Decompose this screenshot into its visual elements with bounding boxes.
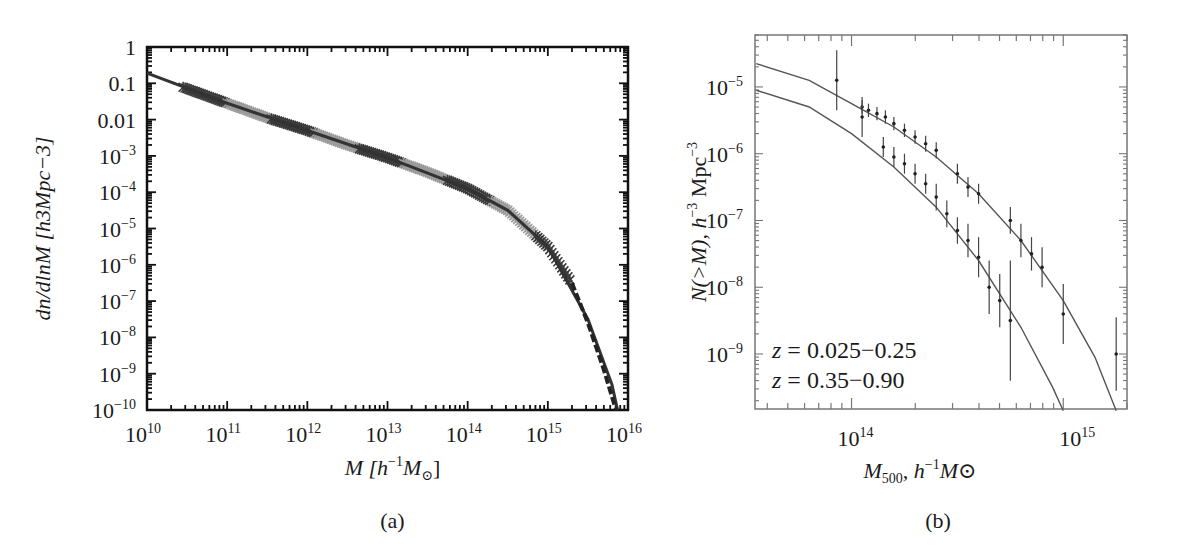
x-tick-label: 1015 <box>526 421 562 447</box>
y-axis-title: dn/dlnM [h3Mpc−3] <box>30 136 55 320</box>
panel-b-caption: (b) <box>925 508 951 533</box>
data-point <box>835 78 839 82</box>
figure-canvas: 101010111012101310141015101610.10.0110−3… <box>0 0 1178 552</box>
data-point <box>1040 265 1044 269</box>
data-point <box>867 109 871 113</box>
data-point <box>892 155 896 159</box>
y-tick-label: 0.01 <box>98 108 137 133</box>
y-tick-label: 1 <box>125 35 136 60</box>
x-tick-label: 1013 <box>366 421 402 447</box>
data-point <box>966 239 970 243</box>
data-point <box>1009 219 1013 223</box>
legend-entry: z = 0.025−0.25 <box>771 337 916 363</box>
legend-entry: z = 0.35−0.90 <box>771 367 904 393</box>
data-point <box>881 145 885 149</box>
data-point <box>924 182 928 186</box>
data-point <box>860 115 864 119</box>
panel-a-chart: 101010111012101310141015101610.10.0110−3… <box>30 35 642 533</box>
y-tick-label: 10−6 <box>99 252 136 278</box>
y-tick-label: 10−4 <box>99 179 136 205</box>
x-tick-label: 1014 <box>446 421 482 447</box>
y-tick-label: 10−7 <box>706 207 743 233</box>
x-tick-label: 1010 <box>125 421 161 447</box>
data-point <box>913 172 917 176</box>
panel-b-chart: 1014101510−510−610−710−810−9z = 0.025−0.… <box>685 35 1127 533</box>
data-point <box>1114 352 1118 356</box>
data-point <box>934 149 938 153</box>
data-point <box>998 299 1002 303</box>
data-point <box>1009 319 1013 323</box>
y-tick-label: 10−5 <box>706 74 743 100</box>
data-point <box>945 212 949 216</box>
data-point <box>903 162 907 166</box>
data-point <box>884 115 888 119</box>
y-tick-label: 10−10 <box>92 397 136 423</box>
data-point <box>977 255 981 259</box>
panel-a-caption: (a) <box>380 508 404 533</box>
data-point <box>903 129 907 133</box>
x-tick-label: 1015 <box>1059 425 1095 451</box>
simulation-crosses <box>179 82 575 286</box>
data-point <box>956 229 960 233</box>
data-point <box>913 135 917 139</box>
data-point <box>1061 312 1065 316</box>
y-axis-title: N(>M), h−3 Mpc−3 <box>685 142 711 303</box>
x-tick-label: 1011 <box>205 421 240 447</box>
x-tick-label: 1016 <box>606 421 642 447</box>
y-tick-label: 10−6 <box>706 141 743 167</box>
data-point <box>875 112 879 116</box>
fit-line <box>147 73 618 410</box>
y-tick-label: 10−3 <box>99 143 136 169</box>
data-point <box>934 195 938 199</box>
y-tick-label: 10−9 <box>99 361 136 387</box>
data-point <box>977 192 981 196</box>
y-tick-label: 0.1 <box>109 71 137 96</box>
x-tick-label: 1012 <box>285 421 321 447</box>
data-point <box>987 285 991 289</box>
x-tick-label: 1014 <box>838 425 874 451</box>
x-axis-title: M500, h−1M⊙ <box>863 457 977 486</box>
data-point <box>1030 252 1034 256</box>
data-point <box>924 142 928 146</box>
data-point <box>956 172 960 176</box>
y-tick-label: 10−8 <box>99 324 136 350</box>
data-point <box>1019 239 1023 243</box>
y-tick-label: 10−9 <box>706 341 743 367</box>
data-point <box>966 185 970 189</box>
y-tick-label: 10−8 <box>706 274 743 300</box>
x-axis-title: M [h−1M⊙] <box>344 454 441 483</box>
y-tick-label: 10−5 <box>99 216 136 242</box>
data-point <box>892 122 896 126</box>
y-tick-label: 10−7 <box>99 288 136 314</box>
